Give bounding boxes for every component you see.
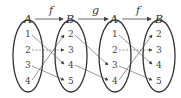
b1-element-3: 3 <box>68 45 74 55</box>
a2-element-3: 3 <box>112 60 118 70</box>
map-label-f1: f <box>48 4 55 17</box>
a2-element-1: 1 <box>112 29 118 39</box>
f2-mapping-arrows <box>119 35 152 80</box>
f1-mapping-arrows <box>32 35 64 80</box>
b1-element-2: 2 <box>68 29 74 39</box>
b1-element-4: 4 <box>68 60 74 70</box>
map-label-f2: f <box>135 4 142 17</box>
a1-element-4: 4 <box>25 76 31 86</box>
b1-element-5: 5 <box>68 76 74 86</box>
a2-element-4: 4 <box>112 76 118 86</box>
function-composition-diagram: A B A B f g f 1 2 3 4 2 3 4 5 1 2 3 4 2 … <box>0 0 181 98</box>
set-label-b2: B <box>154 13 163 26</box>
set-label-b1: B <box>65 13 74 26</box>
b2-element-4: 4 <box>156 60 162 70</box>
b2-element-2: 2 <box>156 29 162 39</box>
a1-element-3: 3 <box>25 60 31 70</box>
map-label-g: g <box>92 4 99 17</box>
set-label-a2: A <box>109 13 118 26</box>
g-mapping-arrows <box>75 35 108 80</box>
b2-element-3: 3 <box>156 45 162 55</box>
a2-element-2: 2 <box>112 45 118 55</box>
a1-element-2: 2 <box>25 45 31 55</box>
set-label-a1: A <box>23 13 32 26</box>
b2-element-5: 5 <box>156 76 162 86</box>
a1-element-1: 1 <box>25 29 31 39</box>
